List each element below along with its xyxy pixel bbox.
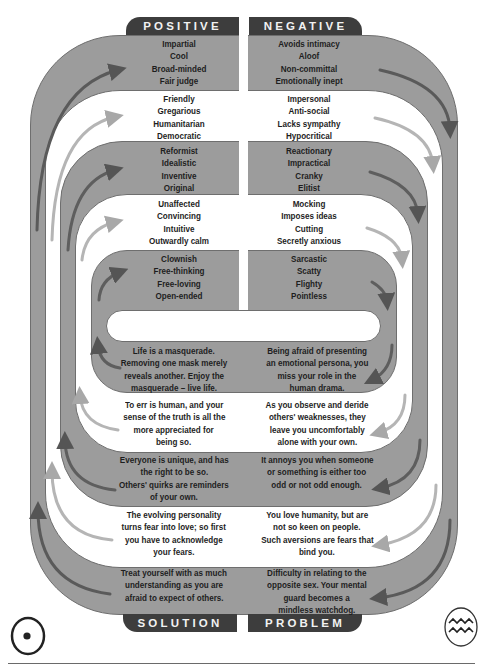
trait: Inventive [128, 170, 229, 182]
trait: Democratic [128, 130, 229, 142]
trait: Clownish [128, 253, 229, 265]
trait: Secretly anxious [258, 235, 359, 247]
positive-group-5: Clownish Free-thinking Free-loving Open-… [128, 253, 229, 303]
text-line: alone with your own. [277, 436, 357, 448]
text-line: Difficulty in relating to the [267, 567, 366, 579]
trait: Anti-social [258, 105, 359, 117]
text-line: To err is human, and your [125, 399, 223, 411]
trait: Humanitarian [128, 118, 229, 130]
text-line: not so keen on people. [273, 521, 360, 533]
problem-text-4: You love humanity, but are not so keen o… [251, 509, 383, 559]
trait: Broad-minded [128, 63, 229, 75]
trait: Original [128, 182, 229, 194]
trait: Emotionally inept [258, 75, 359, 87]
text-line: miss your role in the [278, 370, 357, 382]
problem-text-3: It annoys you when someone or something … [251, 454, 383, 491]
trait: Hypocritical [258, 130, 359, 142]
negative-group-4: Mocking Imposes ideas Cutting Secretly a… [258, 198, 359, 248]
text-line: The evolving personality [127, 509, 222, 521]
text-line: sense of the truth is all the [123, 411, 225, 423]
trait: Cool [128, 50, 229, 62]
text-line: Being afraid of presenting [267, 345, 367, 357]
trait: Convincing [128, 210, 229, 222]
trait: Sarcastic [258, 253, 359, 265]
text-line: It annoys you when someone [261, 454, 373, 466]
text-line: As you observe and deride [265, 399, 368, 411]
text-line: others' weaknesses, they [269, 411, 366, 423]
text-line: Everyone is unique, and has [120, 454, 229, 466]
text-line: masquerade – live life. [131, 382, 217, 394]
text-line: You love humanity, but are [266, 509, 368, 521]
aquarius-symbol-icon [443, 604, 479, 650]
trait: Lacks sympathy [258, 118, 359, 130]
trait: Reformist [128, 145, 229, 157]
positive-group-4: Unaffected Convincing Intuitive Outwardl… [128, 198, 229, 248]
negative-group-3: Reactionary Impractical Cranky Elitist [258, 145, 359, 195]
trait: Aloof [258, 50, 359, 62]
tab-solution: SOLUTION [123, 614, 237, 632]
problem-text-1: Being afraid of presenting an emotional … [251, 345, 383, 395]
text-line: an emotional persona, you [266, 357, 368, 369]
text-line: being so. [156, 436, 191, 448]
text-line: Others' quirks are reminders [119, 479, 229, 491]
problem-text-2: As you observe and deride others' weakne… [251, 399, 383, 449]
trait: Open-ended [128, 290, 229, 302]
text-line: opposite sex. Your mental [267, 579, 367, 591]
text-line: bind you. [299, 546, 335, 558]
trait: Elitist [258, 182, 359, 194]
trait: Friendly [128, 93, 229, 105]
solution-text-2: To err is human, and your sense of the t… [108, 399, 240, 449]
trait: Scatty [258, 265, 359, 277]
trait: Unaffected [128, 198, 229, 210]
trait: Impractical [258, 157, 359, 169]
trait: Imposes ideas [258, 210, 359, 222]
center-pill [106, 310, 381, 342]
negative-group-1: Avoids intimacy Aloof Non-committal Emot… [258, 38, 359, 88]
center-divider-top [239, 18, 248, 310]
tab-positive: POSITIVE [126, 17, 239, 35]
bottom-rule [8, 663, 475, 664]
trait: Fair judge [128, 75, 229, 87]
text-line: of your own. [150, 491, 198, 503]
text-line: understanding as you are [125, 579, 223, 591]
tab-problem: PROBLEM [248, 614, 362, 632]
text-line: more appreciated for [134, 424, 214, 436]
trait: Avoids intimacy [258, 38, 359, 50]
trait: Mocking [258, 198, 359, 210]
trait: Flighty [258, 278, 359, 290]
trait: Outwardly calm [128, 235, 229, 247]
trait: Non-committal [258, 63, 359, 75]
text-line: odd or not odd enough. [272, 479, 362, 491]
trait: Cranky [258, 170, 359, 182]
text-line: guard becomes a [284, 592, 350, 604]
positive-group-3: Reformist Idealistic Inventive Original [128, 145, 229, 195]
trait: Intuitive [128, 223, 229, 235]
tab-negative: NEGATIVE [249, 17, 362, 35]
text-line: turns fear into love; so first [122, 521, 226, 533]
positive-group-2: Friendly Gregarious Humanitarian Democra… [128, 93, 229, 143]
negative-group-2: Impersonal Anti-social Lacks sympathy Hy… [258, 93, 359, 143]
text-line: Life is a masquerade. [133, 345, 215, 357]
text-line: leave you uncomfortably [269, 424, 364, 436]
text-line: afraid to expect of others. [125, 592, 224, 604]
trait: Pointless [258, 290, 359, 302]
solution-text-1: Life is a masquerade. Removing one mask … [108, 345, 240, 395]
solution-text-5: Treat yourself with as much understandin… [108, 567, 240, 604]
text-line: the right to be so. [140, 466, 208, 478]
text-line: Such aversions are fears that [261, 534, 373, 546]
solution-text-3: Everyone is unique, and has the right to… [108, 454, 240, 504]
negative-group-5: Sarcastic Scatty Flighty Pointless [258, 253, 359, 303]
trait: Reactionary [258, 145, 359, 157]
text-line: Removing one mask merely [121, 357, 228, 369]
solution-text-4: The evolving personality turns fear into… [108, 509, 240, 559]
sun-symbol-icon [8, 614, 48, 658]
text-line: your fears. [153, 546, 194, 558]
trait: Impersonal [258, 93, 359, 105]
problem-text-5: Difficulty in relating to the opposite s… [251, 567, 383, 617]
text-line: or something is either too [267, 466, 366, 478]
text-line: human drama. [289, 382, 344, 394]
text-line: reveals another. Enjoy the [124, 370, 224, 382]
trait: Impartial [128, 38, 229, 50]
trait: Free-thinking [128, 265, 229, 277]
trait: Gregarious [128, 105, 229, 117]
